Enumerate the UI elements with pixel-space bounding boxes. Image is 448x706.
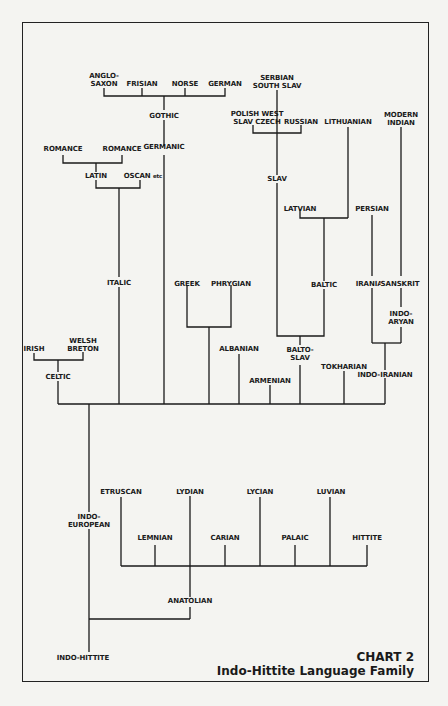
label-slav: SLAV <box>267 175 286 183</box>
label-romance-1: ROMANCE <box>44 145 83 153</box>
label-indo-aryan: INDO- ARYAN <box>388 310 414 326</box>
label-celtic: CELTIC <box>45 373 70 381</box>
label-oscan: OSCAN etc <box>124 172 163 180</box>
label-palaic: PALAIC <box>282 534 309 542</box>
label-phrygian: PHRYGIAN <box>211 280 251 288</box>
label-armenian: ARMENIAN <box>249 377 291 385</box>
chart-title: CHART 2 <box>217 650 414 664</box>
label-hittite: HITTITE <box>352 534 382 542</box>
label-persian: PERSIAN <box>355 205 389 213</box>
label-irish: IRISH <box>24 345 45 353</box>
label-sanskrit: SANSKRIT <box>381 280 420 288</box>
label-albanian: ALBANIAN <box>219 345 259 353</box>
label-lemnian: LEMNIAN <box>137 534 172 542</box>
label-anatolian: ANATOLIAN <box>168 597 212 605</box>
label-anglo-saxon: ANGLO- SAXON <box>89 72 119 88</box>
label-polish-west-slav-czech: POLISH WEST SLAV CZECH <box>231 110 284 126</box>
label-frisian: FRISIAN <box>127 80 158 88</box>
label-romance-2: ROMANCE <box>103 145 142 153</box>
label-norse: NORSE <box>172 80 199 88</box>
label-tokharian: TOKHARIAN <box>321 363 367 371</box>
label-indo-iranian: INDO-IRANIAN <box>357 371 412 379</box>
label-greek: GREEK <box>174 280 200 288</box>
label-italic: ITALIC <box>107 279 131 287</box>
chart-subtitle: Indo-Hittite Language Family <box>217 664 414 678</box>
label-gothic: GOTHIC <box>149 112 178 120</box>
label-serbian-south-slav: SERBIAN SOUTH SLAV <box>253 74 302 90</box>
label-carian: CARIAN <box>210 534 239 542</box>
chart-title-block: CHART 2 Indo-Hittite Language Family <box>217 650 414 678</box>
label-lithuanian: LITHUANIAN <box>324 118 371 126</box>
label-indo-european: INDO- EUROPEAN <box>68 513 110 529</box>
label-etruscan: ETRUSCAN <box>100 488 141 496</box>
label-latin: LATIN <box>85 172 107 180</box>
label-lycian: LYCIAN <box>247 488 274 496</box>
label-indo-hittite: INDO-HITTITE <box>57 654 109 662</box>
label-luvian: LUVIAN <box>317 488 346 496</box>
label-german: GERMAN <box>208 80 242 88</box>
label-baltic: BALTIC <box>311 281 337 289</box>
label-balto-slav: BALTO- SLAV <box>286 346 313 362</box>
tree-lines <box>0 0 448 706</box>
label-modern-indian: MODERN INDIAN <box>384 111 418 127</box>
label-germanic: GERMANIC <box>143 143 184 151</box>
label-lydian: LYDIAN <box>176 488 204 496</box>
label-latvian: LATVIAN <box>284 205 317 213</box>
label-russian: RUSSIAN <box>284 118 318 126</box>
label-welsh-breton: WELSH BRETON <box>67 337 99 353</box>
